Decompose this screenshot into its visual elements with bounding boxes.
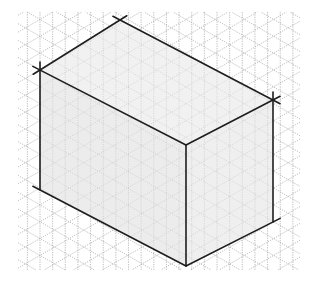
isometric-drawing-canvas [0,0,313,282]
